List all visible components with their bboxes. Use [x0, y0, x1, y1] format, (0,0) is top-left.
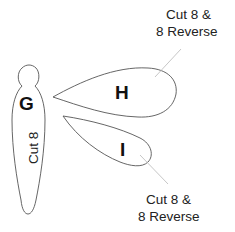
pattern-diagram: G Cut 8 H Cut 8 & 8 Reverse I Cut 8 & 8 … [0, 0, 235, 232]
piece-i-instruction-line2: 8 Reverse [138, 209, 200, 224]
piece-i-letter: I [120, 139, 125, 160]
piece-h-letter: H [115, 82, 129, 103]
piece-i-outline [63, 116, 151, 166]
piece-g: G Cut 8 [12, 65, 45, 214]
piece-i-instruction-line1: Cut 8 & [146, 192, 191, 207]
piece-h: H Cut 8 & 8 Reverse [53, 7, 218, 117]
piece-h-instruction-line2: 8 Reverse [156, 24, 218, 39]
piece-i-leader-line [140, 155, 168, 184]
piece-g-letter: G [19, 93, 34, 114]
piece-h-instruction-line1: Cut 8 & [166, 7, 211, 22]
piece-g-instruction: Cut 8 [26, 132, 41, 164]
piece-i: I Cut 8 & 8 Reverse [63, 116, 200, 224]
piece-h-leader-line [155, 49, 181, 77]
